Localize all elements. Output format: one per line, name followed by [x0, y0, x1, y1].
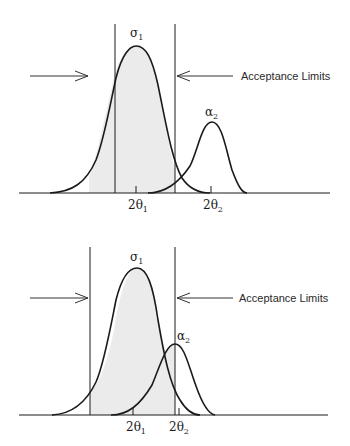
bottom-arrow-left-icon — [177, 293, 233, 303]
diagram-canvas: Acceptance Limits σ1 α2 2θ1 2θ2 Accep — [0, 0, 350, 446]
bottom-alpha2-label: α2 — [177, 329, 190, 345]
bottom-acceptance-limits-label: Acceptance Limits — [239, 292, 329, 304]
top-2theta2-label: 2θ2 — [203, 198, 223, 214]
top-alpha2-label: α2 — [205, 105, 218, 121]
top-acceptance-limits-label: Acceptance Limits — [241, 70, 331, 82]
top-arrow-right-icon — [30, 71, 88, 81]
bottom-arrow-right-icon — [30, 293, 88, 303]
top-2theta1-label: 2θ1 — [128, 198, 148, 214]
bottom-sigma1-label: σ1 — [130, 250, 143, 266]
bottom-2theta2-label: 2θ2 — [169, 420, 189, 436]
bottom-2theta1-label: 2θ1 — [126, 420, 146, 436]
top-panel: Acceptance Limits σ1 α2 2θ1 2θ2 — [19, 24, 331, 214]
bottom-panel: Acceptance Limits σ1 α2 2θ1 2θ2 — [19, 247, 329, 436]
top-arrow-left-icon — [177, 71, 233, 81]
top-shaded-region — [89, 46, 175, 193]
top-sigma1-label: σ1 — [130, 26, 143, 42]
